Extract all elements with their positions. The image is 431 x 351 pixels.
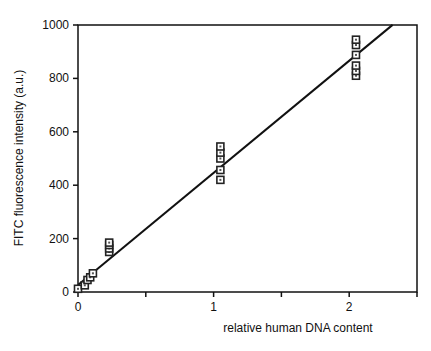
scatter-chart: 02004006008001000012 relative human DNA … (0, 0, 431, 351)
y-tick-label: 1000 (42, 18, 69, 32)
y-tick-label: 600 (49, 125, 69, 139)
x-axis-label: relative human DNA content (223, 321, 373, 335)
y-tick-label: 800 (49, 71, 69, 85)
y-axis-label: FITC fluorescence intensity (a.u.) (12, 70, 26, 247)
regression-line (78, 25, 393, 285)
axes: 02004006008001000012 (42, 18, 417, 314)
y-tick-label: 400 (49, 178, 69, 192)
plot-frame (78, 25, 417, 292)
square-marker-icon (89, 270, 96, 277)
square-marker-icon (352, 62, 359, 69)
square-marker-icon (217, 166, 224, 173)
square-marker-icon (106, 239, 113, 246)
x-tick-label: 1 (210, 300, 217, 314)
square-marker-icon (217, 176, 224, 183)
fit-line (78, 25, 393, 285)
square-marker-icon (352, 51, 359, 58)
y-tick-label: 0 (62, 285, 69, 299)
square-marker-icon (75, 285, 82, 292)
square-marker-icon (352, 36, 359, 43)
square-marker-icon (217, 143, 224, 150)
x-tick-label: 2 (346, 300, 353, 314)
y-tick-label: 200 (49, 232, 69, 246)
x-tick-label: 0 (75, 300, 82, 314)
